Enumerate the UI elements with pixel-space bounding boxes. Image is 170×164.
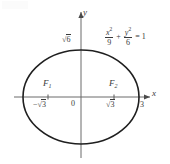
diagram-canvas <box>0 0 170 164</box>
ellipse-diagram: x2 9 + y2 6 = 1 y x 0 F1 F2 −√3 √3 3 √6 <box>0 0 170 164</box>
covertex-top-coordinate: √6 <box>62 36 71 44</box>
ellipse-equation: x2 9 + y2 6 = 1 <box>104 27 146 47</box>
focus-2-radicand: 3 <box>110 99 115 109</box>
focus-1-radicand: 3 <box>41 99 46 109</box>
focus-2-label: F2 <box>109 79 118 88</box>
focus-1-subscript: 1 <box>49 83 52 89</box>
x-denominator: 9 <box>105 38 113 47</box>
y-exponent: 2 <box>128 26 131 32</box>
x-axis-label: x <box>152 89 156 98</box>
equals-one: = 1 <box>135 32 146 41</box>
x-term-fraction: x2 9 <box>105 27 113 47</box>
x-axis-arrowhead <box>144 94 150 99</box>
vertex-right-coordinate: 3 <box>140 101 144 109</box>
y-term-fraction: y2 6 <box>124 27 132 47</box>
focus-2-coordinate: √3 <box>106 101 115 109</box>
origin-label: 0 <box>71 100 75 108</box>
focus-1-label: F1 <box>43 79 52 88</box>
focus-2-letter: F <box>109 78 115 88</box>
focus-2-subscript: 2 <box>115 83 118 89</box>
focus-1-coordinate: −√3 <box>33 101 46 109</box>
focus-1-letter: F <box>43 78 49 88</box>
y-denominator: 6 <box>124 38 132 47</box>
covertex-radicand: 6 <box>66 34 71 44</box>
plus-sign: + <box>116 32 121 41</box>
x-exponent: 2 <box>110 26 113 32</box>
y-axis-label: y <box>83 8 87 17</box>
